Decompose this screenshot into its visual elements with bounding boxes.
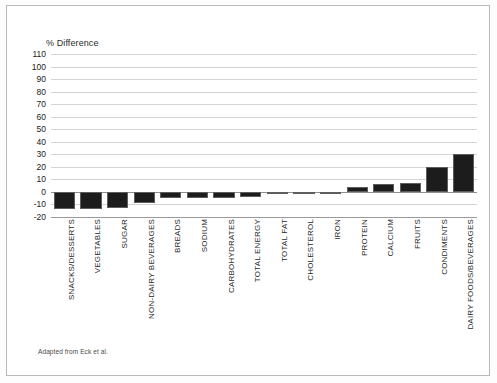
x-tick-label: TOTAL FAT [281,219,289,262]
x-tick-label: IRON [334,219,342,240]
x-tick-label: CALCIUM [387,219,395,256]
x-tick-label: TOTAL ENERGY [254,219,262,282]
bar [267,192,288,195]
y-tick-label: 80 [37,87,46,96]
x-tick-label: SODIUM [201,219,209,252]
x-tick-label: SNACKS/DESSERTS [68,219,76,300]
bar-series [51,54,477,217]
x-tick-label: FRUITS [414,219,422,249]
bar [240,192,261,197]
plot-area: 1101009080706050403020100-10-20 [51,54,477,217]
y-tick-label: 50 [37,125,46,134]
y-axis-title: % Difference [46,38,99,48]
x-tick-label: DAIRY FOODS/BEVERAGES [467,219,475,330]
y-tick-label: 0 [41,188,46,197]
x-tick-label: BREADS [174,219,182,253]
y-tick-label: 100 [32,62,46,71]
bar [134,192,155,203]
y-tick-label: 90 [37,75,46,84]
x-axis-labels: SNACKS/DESSERTSVEGETABLESSUGARNON-DAIRY … [51,219,477,339]
y-tick-label: 70 [37,100,46,109]
bar [107,192,128,208]
x-tick-label: SUGAR [121,219,129,248]
bar [160,192,181,198]
x-tick-label: CARBOHYDRATES [228,219,236,293]
x-tick-label: VEGETABLES [94,219,102,273]
y-tick-label: 20 [37,163,46,172]
bar [293,192,314,194]
gridline--20: -20 [51,217,477,218]
bar [80,192,101,210]
bar [213,192,234,198]
y-tick-label: 60 [37,112,46,121]
y-tick-label: -20 [34,213,46,222]
bar [320,192,341,194]
x-tick-label: NON-DAIRY BEVERAGES [148,219,156,319]
bar [187,192,208,198]
x-tick-label: CONDIMENTS [441,219,449,275]
bar [54,192,75,210]
y-tick-label: 110 [32,50,46,59]
y-tick-label: -10 [34,200,46,209]
x-tick-label: CHOLESTEROL [307,219,315,281]
bar [373,184,394,192]
source-note: Adapted from Eck et al. [38,348,108,355]
y-tick-label: 10 [37,175,46,184]
x-tick-label: PROTEIN [361,219,369,256]
bar [453,154,474,192]
y-tick-label: 30 [37,150,46,159]
y-tick-label: 40 [37,138,46,147]
chart-figure: % Difference 1101009080706050403020100-1… [0,0,497,383]
bar [347,187,368,192]
bar [400,183,421,192]
bar [426,167,447,192]
